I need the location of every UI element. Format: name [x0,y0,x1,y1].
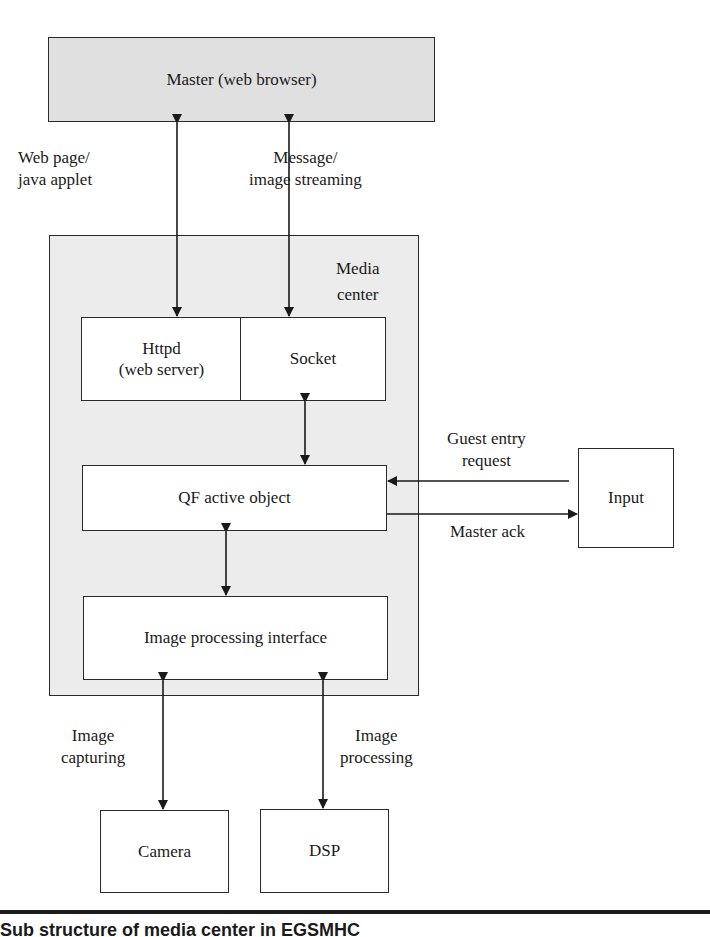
edge-web-page-line2: java applet [18,169,92,191]
input-box: Input [578,448,674,548]
edge-message-line1: Message/ [249,147,362,169]
edge-label-image-processing: Image processing [340,725,413,769]
edge-capturing-line2: capturing [61,747,125,769]
master-web-browser-box: Master (web browser) [48,37,435,122]
edge-processing-line1: Image [340,725,413,747]
socket-box: Socket [240,317,386,401]
caption-rule [0,910,710,914]
media-center-label-line1: Media [336,256,379,282]
edge-capturing-line1: Image [61,725,125,747]
edge-web-page-line1: Web page/ [18,147,92,169]
edge-guest-line1: Guest entry [447,428,526,450]
edge-label-guest-entry: Guest entry request [447,428,526,472]
edge-guest-line2: request [447,450,526,472]
qf-active-object-box: QF active object [82,465,387,531]
edge-processing-line2: processing [340,747,413,769]
socket-label: Socket [290,348,336,369]
edge-label-web-page: Web page/ java applet [18,147,92,191]
dsp-label: DSP [309,840,340,861]
edge-message-line2: image streaming [249,169,362,191]
image-proc-label: Image processing interface [144,627,327,648]
edge-master-ack-text: Master ack [450,522,525,541]
media-center-label: Media center [336,256,379,307]
image-processing-interface-box: Image processing interface [83,596,388,680]
camera-box: Camera [100,810,229,893]
dsp-box: DSP [260,809,389,893]
edge-label-master-ack: Master ack [450,521,525,543]
figure-caption: Sub structure of media center in EGSMHC [0,920,360,937]
master-label: Master (web browser) [166,69,316,90]
media-center-label-line2: center [336,282,379,308]
edge-label-image-capturing: Image capturing [61,725,125,769]
edge-label-message: Message/ image streaming [249,147,362,191]
qf-label: QF active object [178,487,290,508]
httpd-box: Httpd (web server) [81,317,242,401]
camera-label: Camera [138,841,191,862]
httpd-label: Httpd [119,338,204,359]
httpd-sublabel: (web server) [119,359,204,380]
input-label: Input [608,487,644,508]
